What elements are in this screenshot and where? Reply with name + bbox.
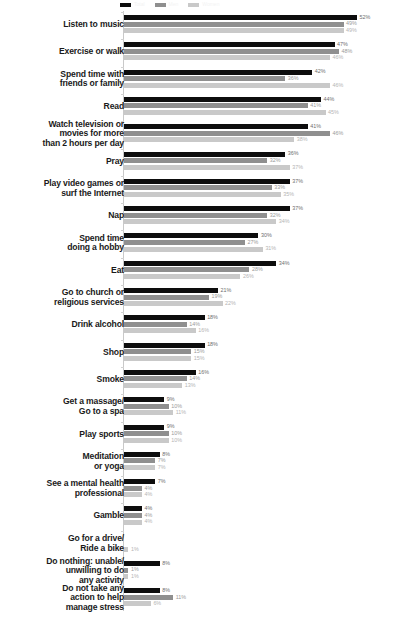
- bar-women: 34%: [124, 219, 290, 224]
- bar-women: 46%: [124, 83, 330, 88]
- bar-group: 52%49%49%: [124, 15, 357, 35]
- bar-value-label: 31%: [263, 245, 276, 251]
- bar-total: 4%: [124, 506, 142, 511]
- category-label: Get a massage/Go to a spa: [0, 397, 124, 416]
- bar-fill: [124, 185, 272, 190]
- bar-value-label: 10%: [169, 430, 182, 436]
- bar-fill: [124, 83, 330, 88]
- bar-value-label: 48%: [339, 48, 352, 54]
- bar-fill: [124, 288, 218, 293]
- bar-total: 18%: [124, 315, 205, 320]
- bar-men: 10%: [124, 431, 169, 436]
- bar-total: 42%: [124, 70, 330, 75]
- bar-fill: [124, 206, 290, 211]
- bar-value-label: 49%: [344, 20, 357, 26]
- chart-plot-area: Listen to music52%49%49%Exercise or walk…: [0, 11, 401, 619]
- category-label: Play video games orsurf the Internet: [0, 179, 124, 198]
- axis-tick: [121, 39, 124, 40]
- axis-tick: [121, 12, 124, 13]
- bar-women: 22%: [124, 301, 223, 306]
- bar-group: 47%48%46%: [124, 42, 339, 62]
- bar-value-label: 11%: [173, 409, 186, 415]
- bar-value-label: 37%: [290, 205, 303, 211]
- bar-men: 49%: [124, 22, 357, 27]
- bar-value-label: 15%: [191, 348, 204, 354]
- bar-fill: [124, 410, 173, 415]
- bar-group: 16%14%13%: [124, 370, 196, 390]
- bar-women: 49%: [124, 28, 357, 33]
- bar-total: 9%: [124, 397, 173, 402]
- bar-group: 36%32%37%: [124, 152, 290, 172]
- category-label: Exercise or walk: [0, 47, 124, 57]
- bar-value-label: 37%: [290, 164, 303, 170]
- category-label: Meditationor yoga: [0, 452, 124, 471]
- bar-women: 13%: [124, 383, 196, 388]
- bar-fill: [124, 322, 187, 327]
- bar-women: 10%: [124, 438, 169, 443]
- category-label: Spend timedoing a hobby: [0, 234, 124, 253]
- axis-tick: [121, 203, 124, 204]
- axis-tick: [121, 476, 124, 477]
- legend-swatch-icon: [188, 3, 199, 7]
- bar-fill: [124, 595, 173, 600]
- bar-group: 8%11%6%: [124, 588, 173, 608]
- bar-women: 4%: [124, 492, 155, 497]
- bar-group: 34%28%26%: [124, 261, 276, 281]
- bar-value-label: 9%: [164, 423, 174, 429]
- bar-men: 36%: [124, 76, 330, 81]
- bar-fill: [124, 404, 169, 409]
- bar-fill: [124, 561, 160, 566]
- bar-group: 4%4%4%: [124, 506, 142, 526]
- category-label: Listen to music: [0, 20, 124, 30]
- bar-women: 37%: [124, 165, 290, 170]
- bar-total: 44%: [124, 97, 326, 102]
- bar-women: 7%: [124, 465, 160, 470]
- bar-value-label: 33%: [272, 184, 285, 190]
- bar-value-label: 41%: [308, 123, 321, 129]
- axis-tick: [121, 67, 124, 68]
- bar-fill: [124, 479, 155, 484]
- axis-tick: [121, 503, 124, 504]
- axis-tick: [121, 230, 124, 231]
- bar-fill: [124, 274, 240, 279]
- category-label: Eat: [0, 266, 124, 276]
- bar-fill: [124, 247, 263, 252]
- bar-value-label: 27%: [245, 239, 258, 245]
- bar-value-label: 49%: [344, 27, 357, 33]
- axis-tick: [121, 340, 124, 341]
- bar-fill: [124, 465, 155, 470]
- bar-total: 41%: [124, 124, 330, 129]
- bar-total: 47%: [124, 42, 339, 47]
- bar-group: 1%: [124, 534, 128, 554]
- bar-fill: [124, 601, 151, 606]
- bar-women: 1%: [124, 547, 128, 552]
- bar-group: 42%36%46%: [124, 70, 330, 90]
- bar-value-label: 35%: [281, 191, 294, 197]
- bar-women: 4%: [124, 520, 142, 525]
- bar-fill: [124, 513, 142, 518]
- bar-men: 4%: [124, 513, 142, 518]
- bar-group: 8%7%7%: [124, 452, 160, 472]
- bar-fill: [124, 124, 308, 129]
- bar-men: 33%: [124, 185, 290, 190]
- category-label: Gamble: [0, 511, 124, 521]
- bar-women: 6%: [124, 601, 173, 606]
- bar-women: 16%: [124, 328, 205, 333]
- bar-fill: [124, 343, 205, 348]
- bar-value-label: 9%: [164, 396, 174, 402]
- bar-value-label: 32%: [267, 212, 280, 218]
- category-label: Smoke: [0, 375, 124, 385]
- bar-fill: [124, 588, 160, 593]
- bar-total: 8%: [124, 452, 160, 457]
- bar-men: 14%: [124, 376, 196, 381]
- bar-fill: [124, 520, 142, 525]
- bar-value-label: 26%: [240, 273, 253, 279]
- axis-tick: [121, 394, 124, 395]
- bar-fill: [124, 383, 182, 388]
- bar-value-label: 16%: [196, 327, 209, 333]
- category-label: Play sports: [0, 430, 124, 440]
- bar-value-label: 36%: [285, 75, 298, 81]
- legend-item: Women: [188, 2, 219, 7]
- bar-total: 52%: [124, 15, 357, 20]
- bar-total: [124, 534, 128, 539]
